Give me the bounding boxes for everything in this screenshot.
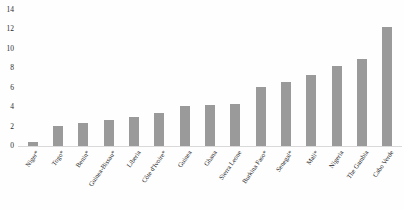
bar[interactable] [332,66,342,146]
x-tick-label: Benin* [74,149,91,169]
bar[interactable] [230,104,240,146]
bar-slot [172,10,197,146]
x-tick-label: Mali* [304,149,319,166]
bar-slot [20,10,45,146]
x-tick-slot: Guinea [172,147,197,210]
y-tick-label: 6 [10,84,14,92]
x-tick-slot: Cabo Verde [375,147,400,210]
bar[interactable] [382,27,392,146]
bar-slot [375,10,400,146]
x-tick-label: Ghana [202,149,218,167]
bar-slot [147,10,172,146]
x-tick-label: Guinea [176,149,193,169]
x-tick-label: Liberia [125,149,142,169]
bar-slot [96,10,121,146]
y-tick-label: 10 [7,45,15,53]
x-tick-label: Niger* [24,149,40,168]
y-tick-label: 0 [10,142,14,150]
x-tick-slot: Nigeria [324,147,349,210]
x-tick-slot: Ghana [197,147,222,210]
x-tick-slot: Niger* [20,147,45,210]
x-tick-label: Cabo Verde [372,149,395,178]
bar-slot [273,10,298,146]
y-tick-label: 12 [7,25,15,33]
x-tick-label: Senegal* [274,149,294,173]
bar-slot [45,10,70,146]
y-tick-label: 14 [7,6,15,14]
bar[interactable] [104,120,114,146]
bar-slot [71,10,96,146]
bar[interactable] [180,106,190,146]
y-tick-label: 8 [10,64,14,72]
y-axis: 14121086420 [0,0,18,150]
bar-slot [121,10,146,146]
bar[interactable] [129,117,139,146]
bar[interactable] [306,75,316,146]
x-tick-slot: The Gambia [349,147,374,210]
x-tick-slot: Mali* [299,147,324,210]
bar[interactable] [78,123,88,146]
x-tick-label: Nigeria [327,149,344,169]
x-tick-label: Togo* [50,149,65,167]
x-tick-slot: Guinea-Bissau* [96,147,121,210]
bar-slot [223,10,248,146]
bar-series [18,10,402,146]
bar[interactable] [154,113,164,146]
x-tick-slot: Senegal* [273,147,298,210]
bar[interactable] [357,59,367,146]
bar-slot [248,10,273,146]
bar-slot [324,10,349,146]
x-tick-label: Sierra Leone [218,149,243,181]
bar-slot [349,10,374,146]
bar[interactable] [256,87,266,146]
x-tick-slot: Côte d'Ivoire* [147,147,172,210]
y-tick-label: 4 [10,103,14,111]
y-tick-label: 2 [10,123,14,131]
x-tick-slot: Togo* [45,147,70,210]
x-tick-slot: Burkina Faso* [248,147,273,210]
bar[interactable] [53,126,63,146]
plot-area [18,10,402,146]
bar[interactable] [205,105,215,146]
bar-slot [197,10,222,146]
bar-chart: 14121086420 Niger*Togo*Benin*Guinea-Biss… [0,0,404,210]
bar-slot [299,10,324,146]
x-tick-label: The Gambia [345,149,370,180]
x-axis: Niger*Togo*Benin*Guinea-Bissau*LiberiaCô… [18,147,402,210]
bar[interactable] [281,82,291,146]
